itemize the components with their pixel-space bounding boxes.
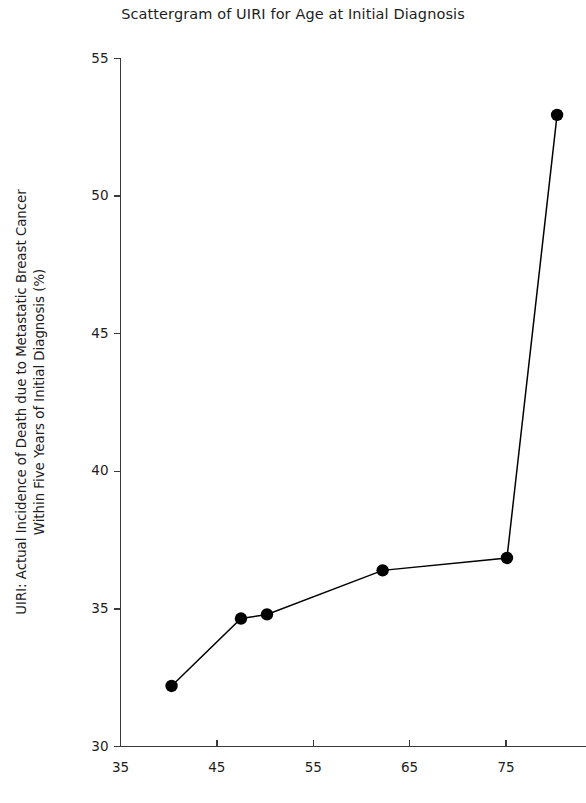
x-tick-label: 75 — [491, 759, 521, 775]
x-tick-label: 55 — [298, 759, 328, 775]
data-point — [261, 608, 273, 620]
x-tick-label: 35 — [106, 759, 136, 775]
data-point — [165, 680, 177, 692]
data-point — [376, 564, 388, 576]
y-tick-label: 45 — [79, 325, 109, 341]
y-tick-label: 55 — [79, 50, 109, 66]
axes — [114, 59, 586, 747]
y-tick-label: 50 — [79, 187, 109, 203]
y-tick-label: 30 — [79, 738, 109, 754]
y-tick-label: 40 — [79, 462, 109, 478]
x-tick-label: 45 — [202, 759, 232, 775]
plot-area — [0, 0, 586, 803]
chart-figure: Scattergram of UIRI for Age at Initial D… — [0, 0, 586, 803]
data-point — [551, 109, 563, 121]
x-tick-label: 65 — [395, 759, 425, 775]
data-point — [501, 552, 513, 564]
data-series — [165, 109, 563, 692]
data-point — [235, 612, 247, 624]
y-tick-label: 35 — [79, 600, 109, 616]
series-line-0 — [172, 115, 558, 686]
